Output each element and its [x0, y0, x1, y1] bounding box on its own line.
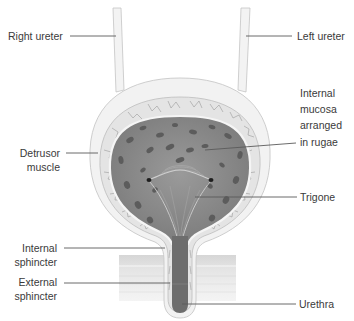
label-internal-sphincter-line2: sphincter: [14, 256, 57, 268]
label-trigone: Trigone: [300, 191, 335, 203]
label-left-ureter: Left ureter: [297, 30, 345, 42]
right-ureter-tube: [113, 8, 124, 92]
label-internal-sphincter-line1: Internal: [22, 242, 57, 254]
label-mucosa-line1: Internal: [300, 87, 335, 99]
left-ureter-tube: [238, 8, 250, 92]
label-external-sphincter-line2: sphincter: [14, 290, 57, 302]
label-mucosa-line3: arranged: [300, 119, 342, 131]
bladder-diagram: Right ureter Left ureter Detrusor muscle…: [0, 0, 354, 321]
urethra-lumen: [172, 236, 188, 313]
label-mucosa-line4: in rugae: [300, 136, 338, 148]
label-mucosa-line2: mucosa: [300, 103, 337, 115]
label-external-sphincter-line1: External: [18, 276, 57, 288]
right-ureteral-orifice: [147, 178, 152, 182]
label-detrusor-line1: Detrusor: [20, 147, 61, 159]
left-ureteral-orifice: [209, 178, 214, 182]
label-detrusor-line2: muscle: [27, 161, 60, 173]
label-urethra: Urethra: [299, 298, 334, 310]
label-right-ureter: Right ureter: [8, 30, 63, 42]
